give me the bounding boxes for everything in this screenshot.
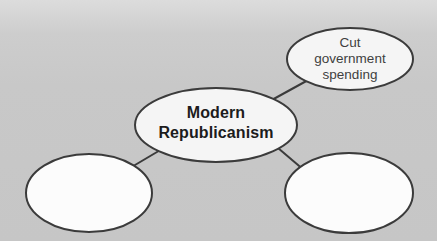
node-cut-government-spending (287, 28, 413, 90)
node-blank-bottom-left[interactable] (26, 154, 152, 232)
node-modern-republicanism (135, 88, 297, 162)
node-blank-bottom-right[interactable] (285, 153, 413, 233)
concept-map-diagram: Modern Republicanism Cut government spen… (0, 0, 437, 241)
diagram-canvas (0, 0, 437, 241)
